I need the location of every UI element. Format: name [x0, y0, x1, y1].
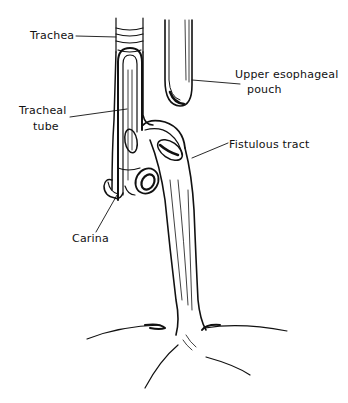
fistulous-tract-label: Fistulous tract [229, 138, 310, 151]
anatomical-diagram: Trachea Tracheal tube Upper esophageal p… [0, 0, 348, 403]
tracheal-tube-label-line1: Tracheal [19, 104, 67, 117]
diaphragm-shape [87, 324, 287, 388]
trachea-shape [116, 18, 143, 52]
carina-label: Carina [72, 232, 109, 245]
tracheal-tube-label-line2: tube [33, 120, 59, 133]
leader-lines [70, 36, 240, 232]
diagram-drawing [0, 0, 348, 403]
upper-esophageal-pouch-shape [165, 20, 192, 106]
upper-pouch-label-line1: Upper esophageal [235, 68, 338, 81]
fistulous-tract-shape [143, 121, 206, 350]
trachea-label: Trachea [30, 29, 74, 42]
tracheal-tube-shape [112, 48, 153, 200]
upper-pouch-label-line2: pouch [247, 83, 282, 96]
